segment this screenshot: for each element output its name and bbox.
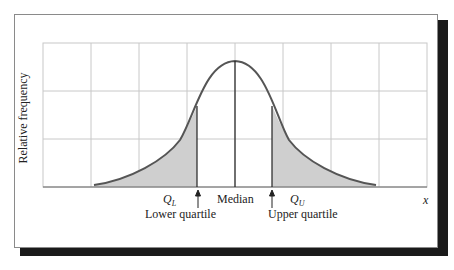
median-label: Median <box>217 192 254 207</box>
lower-quartile-label: Lower quartile <box>145 207 216 222</box>
q-upper-label: QU <box>290 192 304 208</box>
arrow-up-icon <box>270 190 275 208</box>
arrow-up-icon <box>196 190 201 208</box>
upper-tail-shade <box>272 106 376 187</box>
x-axis-label: x <box>423 193 428 208</box>
q-lower-label: QL <box>163 192 176 208</box>
distribution-plot <box>0 0 454 270</box>
y-axis-label: Relative frequency <box>16 73 31 164</box>
upper-quartile-label: Upper quartile <box>268 207 338 222</box>
lower-tail-shade <box>94 106 197 187</box>
